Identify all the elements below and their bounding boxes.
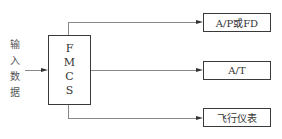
arrowhead-ap-icon: [196, 20, 203, 24]
connector-at-horizontal: [91, 70, 197, 71]
output-box-flight-instruments: 飞行仪表: [203, 108, 271, 127]
input-char: 输: [9, 37, 21, 53]
fmcs-char: S: [66, 84, 74, 98]
connector-ap-vertical: [68, 22, 69, 35]
output-label: A/P或FD: [216, 15, 258, 30]
connector-instruments-vertical: [68, 105, 69, 118]
input-char: 据: [9, 85, 21, 101]
fmcs-box: F M C S: [48, 35, 91, 105]
output-box-at: A/T: [203, 61, 271, 80]
input-data-label: 输 入 数 据: [9, 37, 21, 101]
input-connector: [25, 70, 42, 71]
fmcs-char: F: [66, 42, 74, 56]
input-char: 入: [9, 53, 21, 69]
connector-ap-horizontal: [68, 22, 197, 23]
fmcs-char: M: [64, 56, 75, 70]
output-box-ap-fd: A/P或FD: [203, 13, 271, 32]
input-char: 数: [9, 69, 21, 85]
connector-instruments-horizontal: [68, 118, 197, 119]
arrowhead-at-icon: [196, 68, 203, 72]
output-label: A/T: [228, 65, 245, 76]
fmcs-char: C: [65, 70, 73, 84]
output-label: 飞行仪表: [217, 110, 257, 125]
input-arrowhead-icon: [41, 68, 48, 72]
arrowhead-instruments-icon: [196, 116, 203, 120]
